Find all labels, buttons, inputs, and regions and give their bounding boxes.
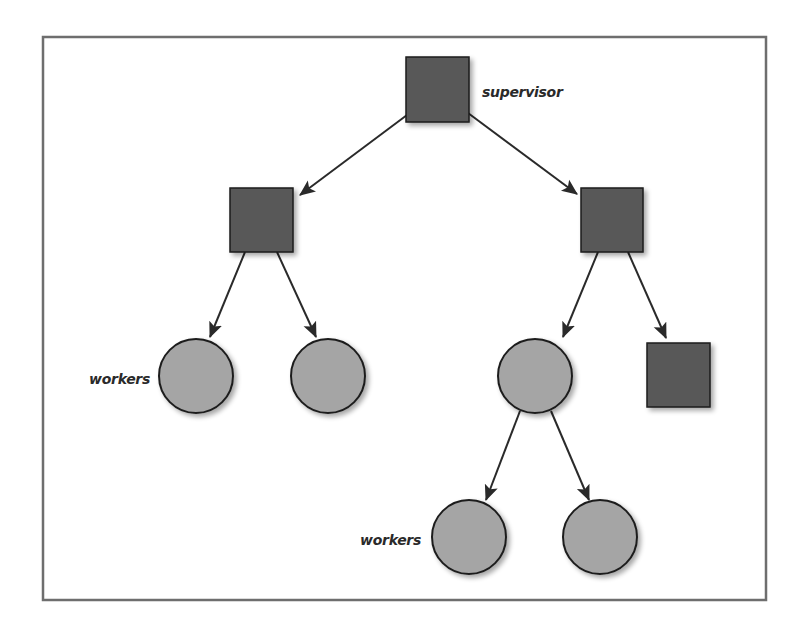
supervisor-node-left [230, 188, 293, 252]
supervisor-node-leaf [647, 343, 710, 407]
supervision-tree-diagram: supervisor workers workers [0, 0, 803, 632]
worker-node-4 [432, 500, 506, 574]
workers-label-top: workers [89, 371, 150, 387]
worker-node-3 [498, 339, 572, 413]
supervisor-node-right [581, 188, 643, 252]
worker-node-2 [291, 339, 365, 413]
supervisor-node-root [406, 57, 469, 122]
supervisor-label: supervisor [482, 84, 564, 100]
worker-node-5 [563, 500, 637, 574]
worker-node-1 [159, 339, 233, 413]
workers-label-bottom: workers [360, 532, 421, 548]
